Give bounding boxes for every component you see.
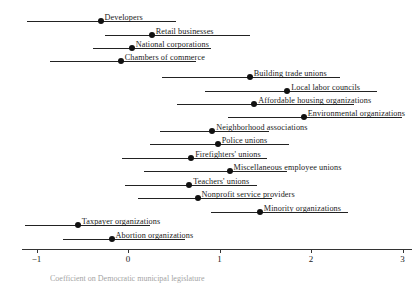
estimate-point xyxy=(129,45,135,51)
estimate-point xyxy=(251,101,257,107)
estimate-point xyxy=(75,222,81,228)
series-label: Local labor councils xyxy=(291,83,360,93)
estimate-point xyxy=(188,155,194,161)
estimate-point xyxy=(284,88,290,94)
x-tick-1 xyxy=(128,249,129,253)
estimate-point xyxy=(186,182,192,188)
series-label: Environmental organizations xyxy=(308,109,405,119)
estimate-row: Chambers of commerce xyxy=(0,54,420,68)
estimate-point xyxy=(257,209,263,215)
estimate-point xyxy=(118,58,124,64)
series-label: Affordable housing organizations xyxy=(258,96,371,106)
series-label: Teachers' unions xyxy=(193,177,249,187)
plot-area: DevelopersRetail businessesNational corp… xyxy=(0,0,420,283)
estimate-point xyxy=(247,74,253,80)
estimate-point xyxy=(227,168,233,174)
estimate-row: Miscellaneous employee unions xyxy=(0,164,420,178)
series-label: Miscellaneous employee unions xyxy=(234,163,342,173)
estimate-row: Neighborhood associations xyxy=(0,124,420,138)
estimate-point xyxy=(109,236,115,242)
x-axis-caption: Coefficient on Democratic municipal legi… xyxy=(50,274,204,283)
coefficient-plot: DevelopersRetail businessesNational corp… xyxy=(0,0,420,283)
estimate-point xyxy=(195,195,201,201)
estimate-row: Building trade unions xyxy=(0,70,420,84)
series-label: Minority organizations xyxy=(264,204,341,214)
series-label: Neighborhood associations xyxy=(216,123,307,133)
x-tick-label-3: 2 xyxy=(309,254,314,265)
x-tick-0 xyxy=(37,249,38,253)
series-label: Nonprofit service providers xyxy=(202,190,295,200)
estimate-point xyxy=(215,141,221,147)
series-label: Developers xyxy=(105,13,143,23)
estimate-row: Firefighters' unions xyxy=(0,151,420,165)
x-tick-label-0: −1 xyxy=(32,254,42,265)
series-label: Chambers of commerce xyxy=(125,53,205,63)
series-label: Retail businesses xyxy=(156,27,214,37)
estimate-row: Taxpayer organizations xyxy=(0,218,420,232)
series-label: Abortion organizations xyxy=(116,231,194,241)
estimate-point xyxy=(149,32,155,38)
x-axis-line xyxy=(22,249,412,250)
estimate-point xyxy=(98,18,104,24)
x-tick-2 xyxy=(220,249,221,253)
estimate-row: Nonprofit service providers xyxy=(0,191,420,205)
estimate-point xyxy=(209,128,215,134)
x-tick-3 xyxy=(311,249,312,253)
estimate-row: Environmental organizations xyxy=(0,110,420,124)
estimate-row: Developers xyxy=(0,14,420,28)
series-label: National corporations xyxy=(136,40,209,50)
estimate-row: Retail businesses xyxy=(0,28,420,42)
estimate-row: Minority organizations xyxy=(0,205,420,219)
x-tick-label-1: 0 xyxy=(126,254,131,265)
series-label: Building trade unions xyxy=(254,69,327,79)
x-tick-label-4: 3 xyxy=(400,254,405,265)
estimate-point xyxy=(301,114,307,120)
series-label: Firefighters' unions xyxy=(195,150,261,160)
x-tick-label-2: 1 xyxy=(217,254,222,265)
estimate-row: Abortion organizations xyxy=(0,232,420,246)
x-tick-4 xyxy=(403,249,404,253)
estimate-row: Police unions xyxy=(0,137,420,151)
series-label: Taxpayer organizations xyxy=(82,217,161,227)
series-label: Police unions xyxy=(222,136,268,146)
estimate-row: National corporations xyxy=(0,41,420,55)
